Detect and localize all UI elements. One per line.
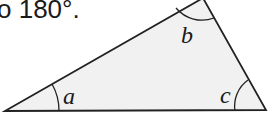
angle-label-c: c — [220, 82, 231, 108]
angle-label-a: a — [63, 83, 75, 109]
angle-label-b: b — [181, 22, 193, 48]
triangle-diagram: a b c — [0, 0, 269, 116]
